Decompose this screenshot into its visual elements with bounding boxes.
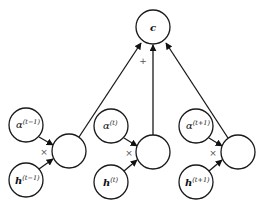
edge-h-1-to-product [39, 159, 53, 169]
edge-h-3-to-product [209, 160, 222, 171]
h-symbol: h [185, 177, 192, 188]
output-node-label: c [150, 22, 156, 33]
h-superscript: (t+1) [192, 176, 210, 184]
product-operator: × [125, 148, 133, 158]
alpha-node-t-plus-1: α(t+1) [179, 109, 213, 143]
alpha-node-t: α(t) [94, 109, 128, 143]
attention-diagram: c + α(t−1) h(t−1) × α(t) [0, 0, 261, 206]
h-superscript: (t) [110, 176, 118, 184]
alpha-superscript: (t) [110, 119, 118, 127]
product-node-t [136, 135, 170, 169]
edge-alpha-1-to-product [39, 137, 53, 145]
group-t-plus-1: α(t+1) h(t+1) × [179, 109, 255, 199]
output-node-c: c [136, 10, 170, 44]
product-node-t-plus-1 [221, 135, 255, 169]
product-operator: × [209, 148, 217, 158]
alpha-superscript: (t−1) [23, 118, 41, 126]
alpha-node-t-minus-1: α(t−1) [9, 108, 43, 142]
h-symbol: h [103, 177, 110, 188]
h-superscript: (t−1) [22, 174, 40, 182]
h-symbol: h [15, 175, 22, 186]
edge-alpha-2-to-product [124, 138, 137, 146]
sum-operator: + [139, 56, 147, 66]
h-node-t-minus-1: h(t−1) [9, 163, 43, 197]
edge-alpha-3-to-product [209, 138, 222, 146]
edge-h-2-to-product [124, 160, 137, 171]
group-t: α(t) h(t) × [94, 109, 170, 199]
alpha-superscript: (t+1) [193, 119, 211, 127]
h-node-t-plus-1: h(t+1) [179, 165, 213, 199]
product-node-t-minus-1 [52, 134, 86, 168]
product-operator: × [40, 147, 48, 157]
group-t-minus-1: α(t−1) h(t−1) × [9, 108, 86, 197]
h-node-t: h(t) [94, 165, 128, 199]
